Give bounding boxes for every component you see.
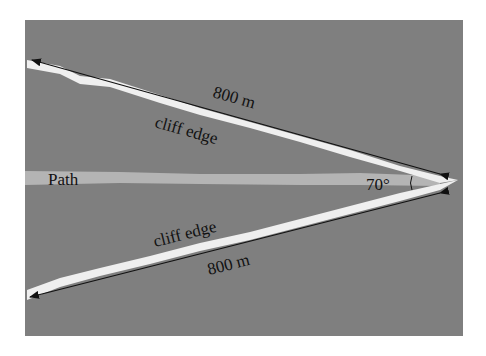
bottom-cliff-edge: [27, 180, 458, 300]
top-cliff-edge: [27, 60, 458, 183]
path-label: Path: [48, 170, 79, 189]
top-cliff-edge-label: cliff edge: [153, 113, 220, 149]
angle-label: 70°: [366, 175, 390, 194]
bottom-distance-label: 800 m: [205, 250, 251, 279]
top-distance-label: 800 m: [211, 83, 257, 113]
cliff-diagram: 800 m cliff edge Path 70° cliff edge 800…: [0, 0, 486, 356]
bottom-distance-arrow: [30, 193, 440, 297]
top-distance-arrow: [32, 60, 440, 174]
